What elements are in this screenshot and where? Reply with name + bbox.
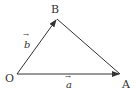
label-o: O xyxy=(5,72,14,85)
vector-b-arrow: → xyxy=(23,31,29,39)
segment-ba xyxy=(57,19,120,74)
label-b: B xyxy=(51,3,59,16)
label-a: A xyxy=(121,78,131,91)
vector-b-label: b xyxy=(24,39,30,50)
vector-diagram: O A B → b → a xyxy=(0,0,136,91)
vector-ob xyxy=(17,20,56,74)
vector-a-label: a xyxy=(66,79,72,90)
